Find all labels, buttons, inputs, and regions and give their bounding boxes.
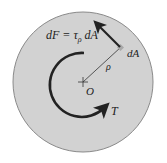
radius-label: ρ [106, 62, 111, 72]
force-label: dF = τρ dA [46, 29, 98, 44]
area-element-label: dA [127, 48, 139, 59]
torsion-diagram [0, 0, 167, 163]
center-label: O [86, 86, 94, 97]
torque-label: T [111, 105, 118, 117]
